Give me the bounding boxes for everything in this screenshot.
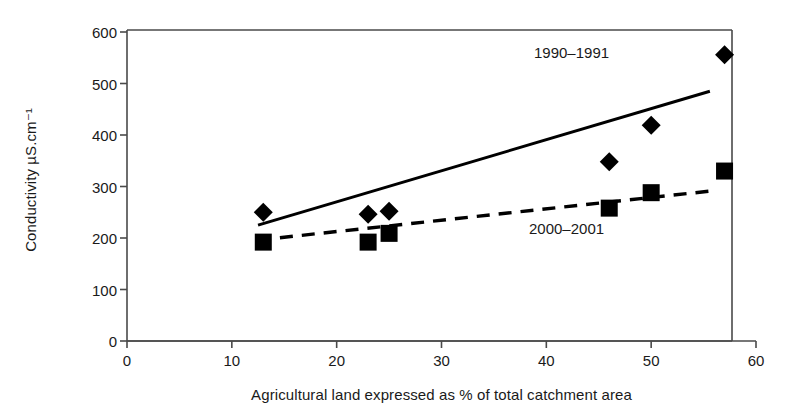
plot-frame: [127, 30, 732, 341]
data-point-marker: [642, 116, 661, 135]
series-label-1990-1991: 1990–1991: [534, 44, 609, 61]
plot-area: [0, 0, 786, 419]
x-tick-label: 0: [123, 352, 131, 369]
x-tick-label: 20: [328, 352, 345, 369]
series-label-2000-2001: 2000–2001: [529, 220, 604, 237]
data-point-marker: [600, 152, 619, 171]
data-markers: [254, 45, 734, 250]
x-tick-label: 30: [433, 352, 450, 369]
data-point-marker: [601, 200, 618, 217]
trendlines: [258, 91, 710, 240]
x-tick-label: 10: [223, 352, 240, 369]
data-point-marker: [359, 205, 378, 224]
x-tick-label: 50: [643, 352, 660, 369]
data-point-marker: [255, 234, 272, 251]
x-axis-tick-marks: [127, 341, 756, 348]
x-tick-label: 60: [748, 352, 765, 369]
chart-figure: Conductivity µS.cm⁻¹ Agricultural land e…: [0, 0, 786, 419]
data-point-marker: [381, 225, 398, 242]
data-point-marker: [643, 184, 660, 201]
data-point-marker: [254, 203, 273, 222]
data-point-marker: [360, 234, 377, 251]
x-tick-label: 40: [538, 352, 555, 369]
data-point-marker: [380, 202, 399, 221]
data-point-marker: [716, 163, 733, 180]
y-axis-tick-marks: [120, 32, 127, 341]
